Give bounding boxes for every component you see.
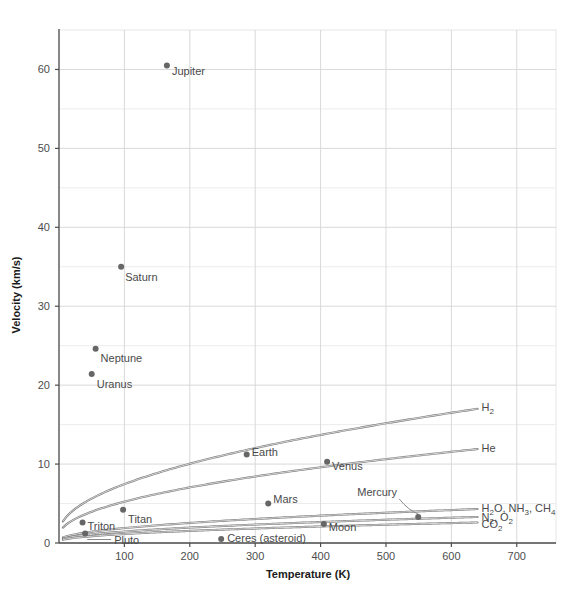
data-point xyxy=(415,514,421,520)
data-point xyxy=(118,264,124,270)
y-axis-tick-label: 10 xyxy=(38,458,50,470)
point-label: Mars xyxy=(273,493,298,505)
grid-layer xyxy=(59,30,556,543)
x-axis-tick-label: 700 xyxy=(508,550,526,562)
x-axis-tick-label: 300 xyxy=(246,550,264,562)
point-label: Earth xyxy=(252,446,278,458)
y-axis-tick-label: 60 xyxy=(38,63,50,75)
x-axis-tick-label: 600 xyxy=(442,550,460,562)
y-axis-tick-label: 0 xyxy=(44,537,50,549)
y-axis-title: Velocity (km/s) xyxy=(10,256,22,333)
data-point xyxy=(218,536,224,542)
point-label: Moon xyxy=(329,521,357,533)
mercury-label: Mercury xyxy=(357,486,397,498)
y-axis-tick-label: 30 xyxy=(38,300,50,312)
velocity-temperature-chart: JupiterSaturnNeptuneUranusEarthVenusMars… xyxy=(0,0,568,595)
data-point xyxy=(265,501,271,507)
data-point xyxy=(89,371,95,377)
y-axis-tick-label: 20 xyxy=(38,379,50,391)
point-label: Ceres (asteroid) xyxy=(227,532,306,544)
data-point xyxy=(324,459,330,465)
data-point xyxy=(80,519,86,525)
point-label: Pluto xyxy=(114,534,139,546)
x-axis-tick-label: 100 xyxy=(115,550,133,562)
x-axis-tick-label: 200 xyxy=(181,550,199,562)
data-point xyxy=(244,452,250,458)
point-label: Triton xyxy=(88,520,116,532)
x-axis-tick-label: 400 xyxy=(311,550,329,562)
data-point xyxy=(93,346,99,352)
data-point xyxy=(120,507,126,513)
plot-area xyxy=(59,30,556,543)
data-point xyxy=(82,531,88,537)
curve-label-he: He xyxy=(482,442,496,454)
point-label: Uranus xyxy=(97,378,133,390)
y-axis-tick-label: 40 xyxy=(38,221,50,233)
point-label: Titan xyxy=(128,513,152,525)
point-label: Neptune xyxy=(101,352,143,364)
point-label: Saturn xyxy=(125,271,157,283)
x-axis-tick-label: 500 xyxy=(377,550,395,562)
point-label: Venus xyxy=(332,460,363,472)
y-axis-tick-label: 50 xyxy=(38,142,50,154)
point-label: Jupiter xyxy=(172,65,205,77)
data-point xyxy=(164,63,170,69)
data-point xyxy=(321,521,327,527)
chart-canvas: JupiterSaturnNeptuneUranusEarthVenusMars… xyxy=(0,0,568,595)
x-axis-title: Temperature (K) xyxy=(266,568,350,580)
